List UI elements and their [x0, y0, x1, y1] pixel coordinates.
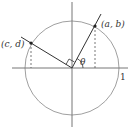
- point-cd-marker: [29, 41, 32, 44]
- ray-ab: [72, 14, 101, 68]
- right-angle-marker: [66, 59, 75, 65]
- label-theta: θ: [80, 57, 86, 67]
- point-ab-marker: [93, 24, 96, 27]
- ray-cd: [21, 37, 72, 68]
- label-point-ab: (a, b): [101, 19, 125, 29]
- label-point-cd: (c, d): [1, 39, 25, 49]
- label-unit-tick: 1: [120, 72, 126, 82]
- unit-circle-diagram: (a, b) (c, d) θ 1: [0, 0, 129, 133]
